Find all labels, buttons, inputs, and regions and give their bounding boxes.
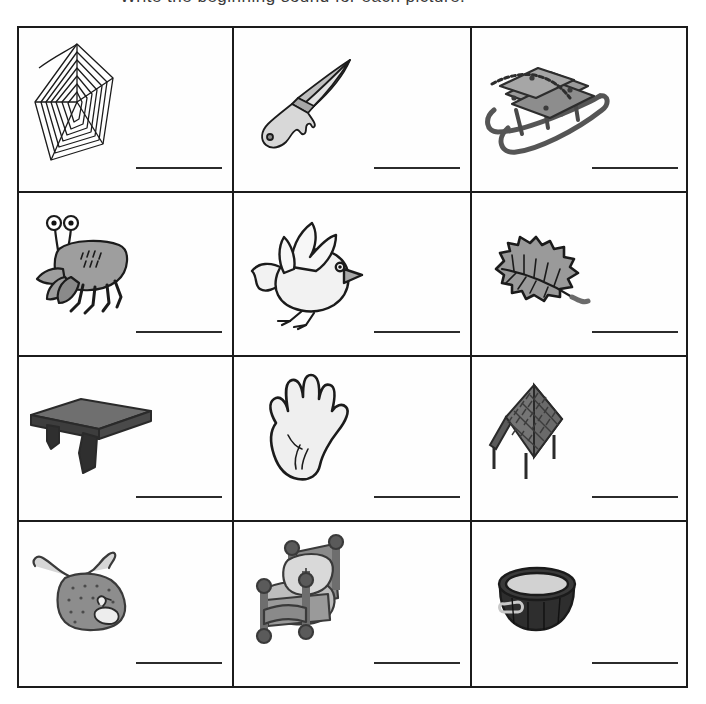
spider-web-icon bbox=[25, 32, 153, 182]
shelf-icon bbox=[25, 361, 153, 511]
picture-label-10: bib bbox=[19, 522, 20, 523]
answer-line-3[interactable] bbox=[592, 167, 678, 169]
answer-line-5[interactable] bbox=[374, 331, 460, 333]
picture-label-5: bird bbox=[234, 193, 235, 194]
answer-line-12[interactable] bbox=[592, 662, 678, 664]
picture-label-11: bed bbox=[234, 522, 235, 523]
picture-label-12: tub bbox=[472, 522, 473, 523]
answer-line-8[interactable] bbox=[374, 496, 460, 498]
worksheet-cell-7[interactable]: shelf bbox=[19, 357, 234, 522]
worksheet-cell-2[interactable]: knife bbox=[234, 28, 472, 193]
knife-icon bbox=[240, 32, 390, 182]
crab-icon bbox=[25, 197, 153, 347]
worksheet-cell-9[interactable]: roof bbox=[472, 357, 688, 522]
cut-off-title-remnant: Write the beginning sound for each pictu… bbox=[0, 0, 706, 14]
bird-icon bbox=[240, 197, 390, 347]
picture-label-9: roof bbox=[472, 357, 473, 358]
worksheet-cell-5[interactable]: bird bbox=[234, 193, 472, 358]
worksheet-cell-6[interactable]: leaf bbox=[472, 193, 688, 358]
answer-line-2[interactable] bbox=[374, 167, 460, 169]
answer-line-7[interactable] bbox=[136, 496, 222, 498]
answer-line-11[interactable] bbox=[374, 662, 460, 664]
worksheet-cell-8[interactable]: hand bbox=[234, 357, 472, 522]
worksheet-cell-3[interactable]: sled bbox=[472, 28, 688, 193]
answer-line-10[interactable] bbox=[136, 662, 222, 664]
answer-line-1[interactable] bbox=[136, 167, 222, 169]
bed-icon bbox=[240, 526, 390, 676]
bib-icon bbox=[25, 526, 153, 676]
worksheet-cell-12[interactable]: tub bbox=[472, 522, 688, 687]
worksheet-cell-11[interactable]: bed bbox=[234, 522, 472, 687]
worksheet-cell-1[interactable]: web bbox=[19, 28, 234, 193]
picture-label-8: hand bbox=[234, 357, 235, 358]
hand-icon bbox=[240, 361, 390, 511]
picture-label-6: leaf bbox=[472, 193, 473, 194]
worksheet-grid: web knife bbox=[17, 26, 688, 688]
picture-label-4: crab bbox=[19, 193, 20, 194]
picture-label-3: sled bbox=[472, 28, 473, 29]
tub-icon bbox=[478, 526, 628, 676]
picture-label-7: shelf bbox=[19, 357, 20, 358]
worksheet-cell-4[interactable]: crab bbox=[19, 193, 234, 358]
answer-line-6[interactable] bbox=[592, 331, 678, 333]
answer-line-9[interactable] bbox=[592, 496, 678, 498]
leaf-icon bbox=[478, 197, 628, 347]
worksheet-cell-10[interactable]: bib bbox=[19, 522, 234, 687]
title-remnant-text: Write the beginning sound for each pictu… bbox=[120, 0, 465, 7]
roof-icon bbox=[478, 361, 628, 511]
sled-icon bbox=[478, 32, 628, 182]
answer-line-4[interactable] bbox=[136, 331, 222, 333]
picture-label-1: web bbox=[19, 28, 20, 29]
picture-label-2: knife bbox=[234, 28, 235, 29]
